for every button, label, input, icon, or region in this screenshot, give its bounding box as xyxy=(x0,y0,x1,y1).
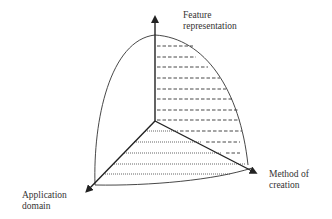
application-label-line2: domain xyxy=(22,201,67,212)
bottom-plane-hatching xyxy=(105,131,246,174)
method-of-creation-label: Method of creation xyxy=(269,169,309,191)
method-label-line1: Method of xyxy=(269,169,309,180)
application-label-line1: Application xyxy=(22,190,67,201)
envelope-bottom-arc xyxy=(95,168,252,185)
application-domain-label: Application domain xyxy=(22,190,67,212)
feature-label-line2: representation xyxy=(183,21,237,32)
vertical-plane-hatching xyxy=(157,46,242,153)
method-label-line2: creation xyxy=(269,180,309,191)
feature-label-line1: Feature xyxy=(183,10,237,21)
application-axis xyxy=(88,121,155,190)
feature-representation-label: Feature representation xyxy=(183,10,237,32)
